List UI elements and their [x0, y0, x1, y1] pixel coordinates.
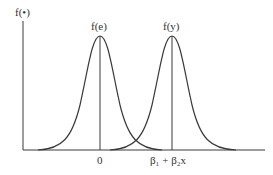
x-tick-mean: β₁ + β₂x [150, 154, 187, 166]
curve-label-f-e: f(e) [91, 20, 107, 33]
curve-label-f-y: f(y) [163, 20, 180, 33]
density-diagram: f(•) f(e) f(y) 0 β₁ + β₂x [0, 0, 273, 175]
x-tick-zero: 0 [97, 154, 103, 166]
y-axis-label: f(•) [15, 6, 30, 19]
curve-f-y [110, 36, 236, 150]
